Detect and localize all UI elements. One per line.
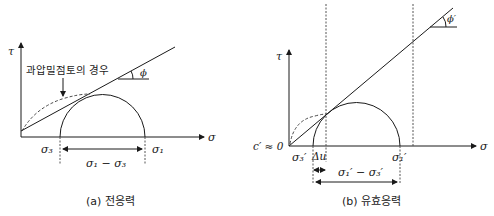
- failure-envelope: [21, 47, 175, 131]
- sigma1-label: σ₁: [152, 143, 164, 156]
- panel-b-effective-stress: τ σ c′ ≈ 0 ϕ′ σ₃′ Δu σ₁′ σ₁′ − σ₃′ (b) 유…: [253, 4, 488, 208]
- tau-axis-label: τ: [8, 45, 15, 58]
- caption-a: (a) 전응력: [86, 195, 135, 208]
- sigma3-label: σ₃: [41, 143, 53, 156]
- delta-u-label: Δu: [311, 150, 327, 162]
- mohr-circle: [60, 95, 145, 137]
- tau-axis-label: τ: [276, 50, 283, 63]
- overconsolidated-annotation: 과압밀점토의 경우: [26, 64, 109, 76]
- sigma-axis-label: σ: [208, 131, 216, 144]
- phi-arc: [131, 71, 133, 79]
- failure-envelope: [289, 8, 453, 146]
- sigma1-prime-label: σ₁′: [392, 151, 407, 164]
- phi-label: ϕ: [140, 67, 147, 78]
- sigma3-prime-label: σ₃′: [292, 151, 307, 164]
- sigma-axis-label: σ: [480, 140, 488, 153]
- mohr-coulomb-diagram: τ σ ϕ 과압밀점토의 경우 σ₃ σ₁ σ₁ − σ₃ (a) 전응력 τ …: [0, 0, 494, 216]
- deviator-label: σ₁ − σ₃: [86, 157, 126, 170]
- deviator-label: σ₁′ − σ₃′: [338, 166, 384, 179]
- phi-arc: [443, 17, 446, 27]
- panel-a-total-stress: τ σ ϕ 과압밀점토의 경우 σ₃ σ₁ σ₁ − σ₃ (a) 전응력: [8, 43, 216, 208]
- caption-b: (b) 유효응력: [342, 195, 401, 208]
- phi-prime-label: ϕ′: [447, 13, 457, 24]
- cohesion-label: c′ ≈ 0: [253, 140, 284, 152]
